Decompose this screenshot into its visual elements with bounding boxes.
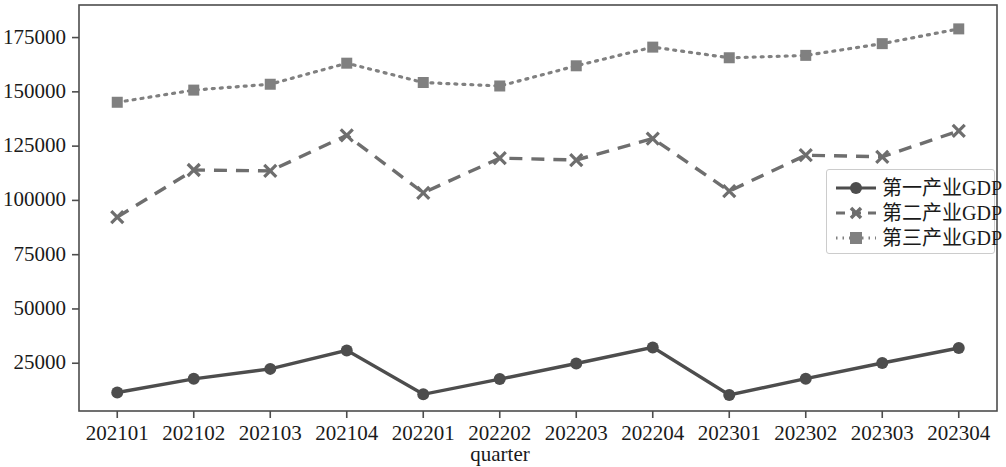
- x-axis-ticks: [117, 411, 959, 418]
- x-tick-label: 202304: [909, 423, 1006, 444]
- y-tick-label: 25000: [14, 352, 67, 373]
- legend-item: 第二产业GDP: [834, 200, 987, 225]
- legend-sample-series-3: [834, 226, 878, 250]
- y-tick-label: 150000: [3, 81, 66, 102]
- x-axis-label: quarter: [0, 444, 1000, 465]
- legend-sample-series-1: [834, 176, 878, 200]
- y-tick-label: 100000: [3, 189, 66, 210]
- chart-legend: 第一产业GDP 第二产业GDP 第三产业GDP: [826, 169, 995, 254]
- legend-label-series-1: 第一产业GDP: [878, 178, 1002, 198]
- legend-label-series-2: 第二产业GDP: [878, 203, 1002, 223]
- legend-item: 第一产业GDP: [834, 175, 987, 200]
- y-tick-label: 125000: [3, 135, 66, 156]
- legend-sample-series-2: [834, 201, 878, 225]
- y-tick-label: 50000: [14, 298, 67, 319]
- legend-label-series-3: 第三产业GDP: [878, 228, 1002, 248]
- legend-item: 第三产业GDP: [834, 225, 987, 250]
- y-axis-ticks: [72, 38, 79, 364]
- y-tick-label: 175000: [3, 27, 66, 48]
- y-tick-label: 75000: [14, 244, 67, 265]
